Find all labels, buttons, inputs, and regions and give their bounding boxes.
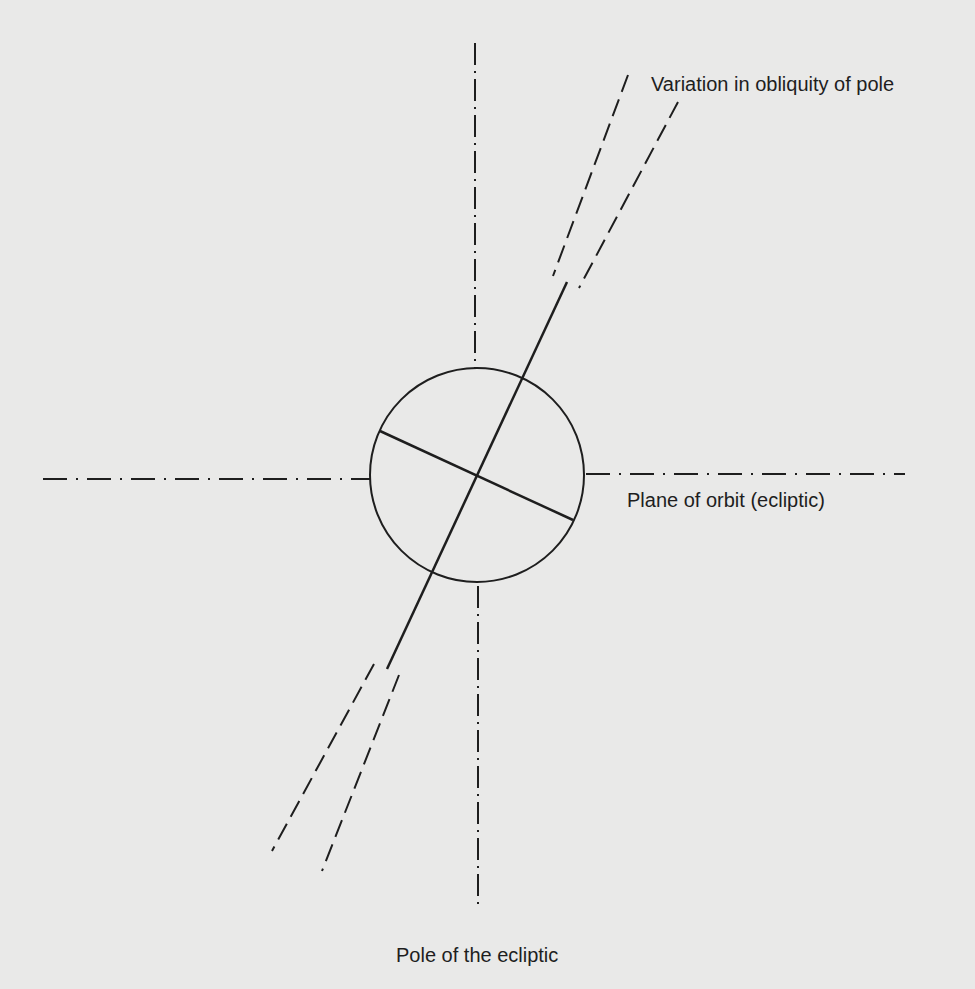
obliquity-upper-right-dashed: [579, 102, 678, 288]
obliquity-lower-left-dashed: [272, 664, 374, 851]
diagram-canvas: [0, 0, 975, 989]
ecliptic-pole-label: Pole of the ecliptic: [396, 945, 558, 965]
obliquity-label: Variation in obliquity of pole: [651, 74, 894, 94]
obliquity-lower-right-dashed: [322, 675, 399, 871]
ecliptic-plane-label: Plane of orbit (ecliptic): [627, 490, 825, 510]
rotation-axis-line: [387, 282, 567, 669]
obliquity-upper-left-dashed: [553, 75, 628, 276]
